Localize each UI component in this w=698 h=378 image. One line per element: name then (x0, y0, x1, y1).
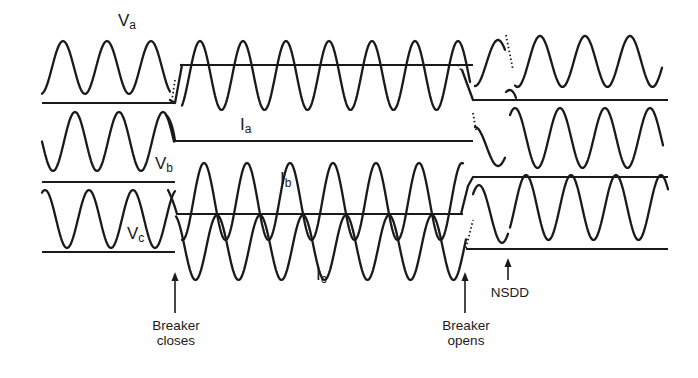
breaker-opens-label-line: Breaker (430, 318, 502, 333)
breaker-opens-label-line: opens (430, 333, 502, 348)
vb-label-main: V (155, 154, 166, 173)
nsdd-arrowhead-icon (505, 258, 512, 267)
waveform-diagram (0, 0, 698, 378)
ia-waveform (182, 41, 470, 110)
nsdd-label-line: NSDD (488, 285, 532, 300)
breaker-closes-label: Breakercloses (140, 318, 212, 348)
ib-label-subscript: b (285, 176, 292, 190)
va-pre-waveform (42, 41, 170, 94)
va-post-nsdd-waveform (515, 36, 662, 87)
nsdd-label: NSDD (488, 285, 532, 300)
breaker-closes-label-line: closes (140, 333, 212, 348)
vc-post-nsdd-waveform (510, 175, 668, 240)
breaker-opens-arrowhead-icon (462, 272, 469, 281)
va-label-subscript: a (129, 18, 136, 32)
va-nsdd-dotted (506, 35, 513, 70)
vb-label-subscript: b (166, 161, 173, 175)
va-close-transition (170, 65, 182, 103)
vc-pre-waveform (42, 190, 175, 248)
va-close-dotted (172, 80, 175, 100)
vc-post-waveform (473, 185, 508, 243)
breaker-closes-arrowhead-icon (172, 272, 179, 281)
vb-label: Vb (155, 155, 173, 174)
vb-post-nsdd-waveform (510, 108, 663, 168)
vb-nsdd-transition (506, 90, 516, 98)
ib-label: Ib (280, 170, 291, 189)
va-label: Va (118, 12, 136, 31)
vc-label-main: V (127, 224, 138, 243)
breaker-opens-label: Breakeropens (430, 318, 502, 348)
va-label-main: V (118, 11, 129, 30)
ic-label: Ic (316, 266, 327, 285)
ia-label-subscript: a (245, 122, 252, 136)
va-post-waveform (475, 40, 505, 86)
ia-label: Ia (240, 116, 251, 135)
vc-label: Vc (127, 225, 144, 244)
vb-post-waveform (475, 127, 505, 166)
ic-label-subscript: c (321, 272, 327, 286)
breaker-closes-label-line: Breaker (140, 318, 212, 333)
ib-open-transition (461, 177, 473, 214)
vc-open-dotted (466, 220, 473, 248)
vc-label-subscript: c (138, 231, 144, 245)
